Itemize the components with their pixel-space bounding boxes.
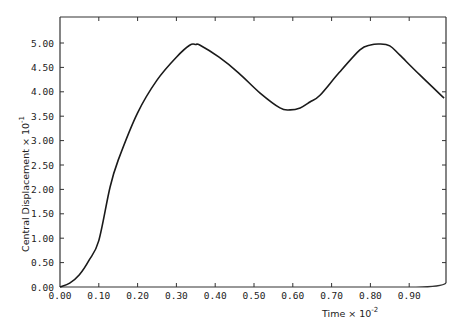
y-tick-label: 4.00 — [31, 86, 54, 97]
x-tick-label: 0.40 — [204, 290, 227, 301]
y-tick-label: 1.00 — [31, 233, 54, 244]
y-tick-label: 4.50 — [31, 62, 54, 73]
y-tick-label: 3.50 — [31, 111, 54, 122]
y-tick-label: 2.50 — [31, 160, 54, 171]
x-tick-label: 0.80 — [359, 290, 382, 301]
x-tick-label: 0.70 — [320, 290, 343, 301]
x-tick-label: 0.20 — [126, 290, 149, 301]
x-axis-title: Time × 10-2 — [321, 306, 378, 319]
y-axis-title: Central Displacement × 10-1 — [18, 116, 31, 252]
x-tick-label: 0.30 — [165, 290, 188, 301]
x-tick-label: 0.10 — [87, 290, 110, 301]
x-tick-label: 0.60 — [281, 290, 304, 301]
displacement-curve — [60, 44, 444, 287]
plot-frame — [60, 17, 446, 287]
y-tick-label: 0.00 — [31, 282, 54, 293]
y-tick-label: 3.00 — [31, 135, 54, 146]
y-tick-label: 1.50 — [31, 208, 54, 219]
x-axis-ticks: 0.000.100.200.300.400.500.600.700.800.90 — [49, 17, 421, 301]
chart: 0.000.100.200.300.400.500.600.700.800.90… — [0, 0, 463, 331]
y-tick-label: 0.50 — [31, 257, 54, 268]
y-tick-label: 5.00 — [31, 38, 54, 49]
x-tick-label: 0.90 — [398, 290, 421, 301]
y-tick-label: 2.00 — [31, 184, 54, 195]
x-tick-label: 0.50 — [243, 290, 266, 301]
